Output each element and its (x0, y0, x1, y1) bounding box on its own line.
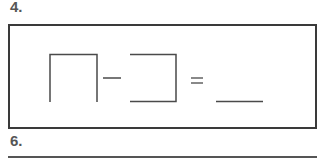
divider-line (8, 156, 317, 158)
problem-number-6: 6. (10, 132, 23, 149)
open-bottom-box-shape (50, 55, 97, 103)
open-left-box-shape (130, 55, 176, 102)
problem-4-expression (0, 0, 317, 158)
equals-sign (191, 78, 203, 83)
